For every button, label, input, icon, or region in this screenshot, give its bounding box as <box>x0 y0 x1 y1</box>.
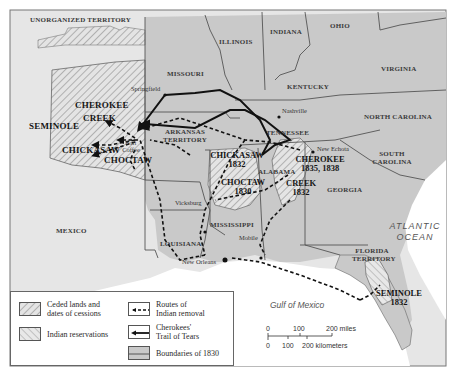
scale-miles-200: 200 miles <box>326 325 356 332</box>
ceded-hatch-icon <box>19 302 41 316</box>
region-unorganized-territory: UNORGANIZED TERRITORY <box>30 16 131 24</box>
scale-km-200: 200 kilometers <box>302 342 348 349</box>
tribe-creek-west: CREEK <box>83 113 116 123</box>
region-louisiana: LOUISIANA <box>160 240 201 248</box>
gulf-of-mexico-label: Gulf of Mexico <box>270 300 324 310</box>
region-illinois: ILLINOIS <box>219 38 253 46</box>
map-legend: Ceded lands and dates of cessions Indian… <box>10 291 234 366</box>
region-indiana: INDIANA <box>270 28 302 36</box>
scale-miles-0: 0 <box>266 325 270 332</box>
city-vicksburg: Vicksburg <box>175 199 202 206</box>
atlantic-ocean-label: ATLANTIC OCEAN <box>388 221 442 243</box>
city-new-echota: New Echota <box>317 145 349 152</box>
tribe-cherokee-west: CHEROKEE <box>75 100 129 110</box>
tribe-creek-east: CREEK 1832 <box>286 179 316 197</box>
tribe-seminole-west: SEMINOLE <box>29 121 79 131</box>
legend-routes: Routes of Indian removal <box>128 300 205 318</box>
city-mobile: Mobile <box>239 234 258 241</box>
region-arkansas-territory: ARKANSAS TERRITORY <box>160 128 210 144</box>
city-fort-coffee: Fort Coffee <box>120 139 142 153</box>
tribe-seminole-east: SEMINOLE 1832 <box>376 289 422 307</box>
city-springfield: Springfield <box>131 85 160 92</box>
tribe-choctaw-east: CHOCTAW 1830 <box>220 178 266 196</box>
legend-trail: Cherokees' Trail of Tears <box>128 323 199 341</box>
region-georgia: GEORGIA <box>327 186 362 194</box>
region-ohio: OHIO <box>330 22 350 30</box>
region-tennessee: TENNESSEE <box>266 129 309 137</box>
legend-ceded: Ceded lands and dates of cessions <box>19 300 101 318</box>
region-kentucky: KENTUCKY <box>287 83 329 91</box>
region-alabama: ALABAMA <box>258 168 296 176</box>
tribe-cherokee-east: CHEROKEE 1835, 1838 <box>294 155 346 173</box>
city-new-orleans: New Orleans <box>182 258 216 265</box>
boundary-line-icon <box>128 346 150 360</box>
region-missouri: MISSOURI <box>167 70 204 78</box>
region-mexico: MEXICO <box>56 227 87 235</box>
tribe-chickasaw-east: CHICKASAW 1832 <box>210 151 264 169</box>
tribe-choctaw-west: CHOCTAW <box>104 155 152 165</box>
scale-km-0: 0 <box>266 342 270 349</box>
scale-miles-100: 100 <box>293 325 305 332</box>
region-florida-territory: FLORIDA TERRITORY <box>352 247 392 263</box>
region-virginia: VIRGINIA <box>381 65 416 73</box>
legend-boundaries: Boundaries of 1830 <box>128 346 219 360</box>
region-mississippi: MISSISSIPPI <box>210 221 254 229</box>
legend-reservations: Indian reservations <box>19 327 108 341</box>
scale-km-100: 100 <box>282 342 294 349</box>
city-nashville: Nashville <box>282 107 307 114</box>
tribe-chickasaw-west: CHICKASAW <box>62 145 120 155</box>
region-north-carolina: NORTH CAROLINA <box>364 113 432 121</box>
region-south-carolina: SOUTH CAROLINA <box>370 150 414 166</box>
dashed-route-icon <box>128 302 150 316</box>
solid-trail-icon <box>128 325 150 339</box>
reservation-hatch-icon <box>19 327 41 341</box>
